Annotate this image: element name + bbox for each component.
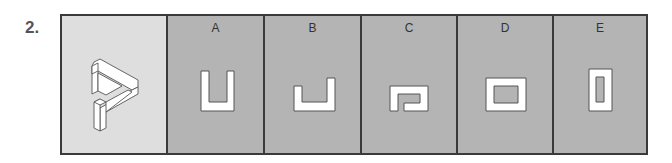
hook-shape-icon bbox=[362, 16, 456, 153]
option-a[interactable]: A bbox=[166, 16, 263, 153]
question-number: 2. bbox=[25, 18, 39, 38]
option-e[interactable]: E bbox=[552, 16, 646, 153]
option-b[interactable]: B bbox=[263, 16, 360, 153]
wide-rect-frame-icon bbox=[458, 16, 552, 153]
impossible-figure-icon bbox=[62, 16, 166, 153]
tall-u-shape-icon bbox=[168, 16, 263, 153]
option-d[interactable]: D bbox=[456, 16, 552, 153]
answer-strip: A B C D E bbox=[60, 14, 648, 155]
short-u-shape-icon bbox=[265, 16, 360, 153]
question-figure-cell bbox=[62, 16, 166, 153]
option-c[interactable]: C bbox=[360, 16, 456, 153]
tall-rect-frame-icon bbox=[554, 16, 646, 153]
